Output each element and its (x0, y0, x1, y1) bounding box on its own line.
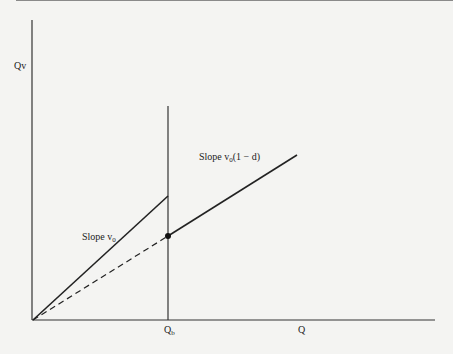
slope-lower-prefix: Slope v (82, 231, 112, 242)
breakpoint-label-sub: b (171, 329, 175, 337)
x-axis-label: Q (298, 324, 305, 336)
breakpoint-label: Qb (164, 324, 175, 336)
slope-upper-suffix: (1 − d) (233, 151, 260, 162)
slope-upper-prefix: Slope v (199, 151, 229, 162)
slope-upper-label: Slope v0(1 − d) (199, 151, 260, 163)
slope-lower-sub: 0 (112, 236, 116, 244)
diagram-graphics (0, 0, 453, 354)
x-axis-label-text: Q (298, 324, 305, 335)
dashed-extension-line (33, 236, 168, 320)
quantity-discount-diagram: Qv Slope v0(1 − d) Slope v0 Qb Q (0, 0, 453, 354)
slope-v0-1-minus-d-line (168, 155, 297, 236)
y-axis-label: Qv (14, 60, 26, 72)
slope-lower-label: Slope v0 (82, 231, 116, 243)
y-axis-label-text: Qv (14, 60, 26, 71)
discontinuity-point (165, 233, 171, 239)
slope-v0-line (33, 196, 168, 320)
